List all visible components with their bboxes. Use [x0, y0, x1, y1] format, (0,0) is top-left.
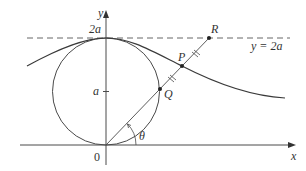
- x-axis-label: x: [290, 149, 297, 163]
- label-P: P: [177, 50, 186, 64]
- y-tick-a-label: a: [93, 84, 99, 98]
- y-axis-label: y: [97, 6, 104, 20]
- label-Q: Q: [164, 87, 173, 101]
- y-axis-arrow-icon: [103, 10, 109, 18]
- point-Q: [158, 87, 162, 91]
- witch-curve: [27, 38, 285, 98]
- x-axis-arrow-icon: [288, 142, 296, 148]
- label-R: R: [210, 22, 219, 36]
- y-tick-2a-label: 2a: [89, 22, 101, 36]
- point-R: [207, 36, 211, 40]
- diagram-canvas: y x 0 2a a y = 2a R P Q θ: [0, 0, 306, 171]
- witch-of-agnesi-diagram: y x 0 2a a y = 2a R P Q θ: [0, 0, 306, 171]
- origin-label: 0: [94, 150, 100, 164]
- dashed-line-label: y = 2a: [250, 39, 282, 53]
- angle-theta-label: θ: [139, 129, 145, 143]
- point-P: [180, 64, 184, 68]
